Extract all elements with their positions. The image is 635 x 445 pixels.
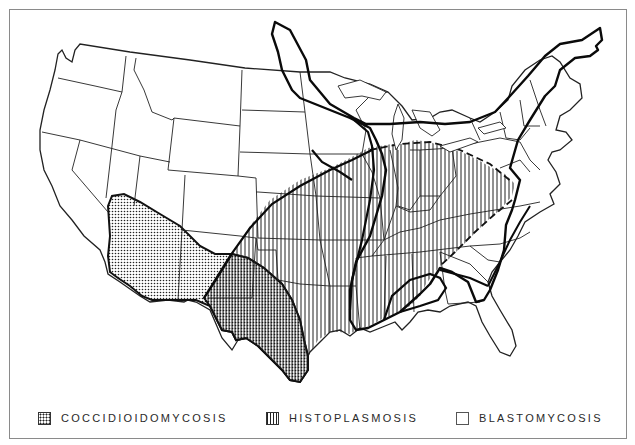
legend-label: HISTOPLASMOSIS [289, 412, 418, 424]
legend-item-blastomycosis: BLASTOMYCOSIS [456, 407, 603, 429]
us-map [0, 0, 635, 445]
legend-item-histoplasmosis: HISTOPLASMOSIS [266, 407, 418, 429]
vertical-lines-pattern-icon [266, 412, 279, 425]
legend-label: BLASTOMYCOSIS [479, 412, 603, 424]
empty-square-icon [456, 412, 469, 425]
stippled-pattern-icon [38, 412, 51, 425]
legend-item-coccidioidomycosis: COCCIDIOIDOMYCOSIS [38, 407, 228, 429]
map-legend: COCCIDIOIDOMYCOSIS HISTOPLASMOSIS BLASTO… [0, 407, 635, 431]
legend-label: COCCIDIOIDOMYCOSIS [61, 412, 228, 424]
